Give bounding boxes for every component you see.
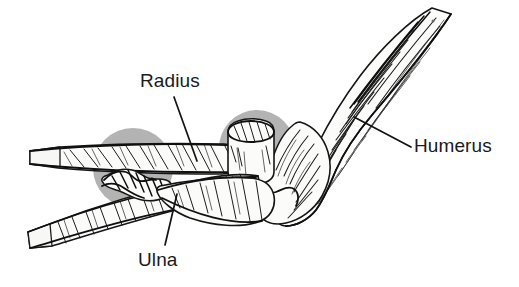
humerus-leader-line — [354, 117, 411, 147]
label-humerus: Humerus — [414, 136, 492, 155]
label-ulna: Ulna — [138, 250, 177, 269]
anatomical-figure: Radius Ulna Humerus — [0, 0, 519, 287]
ink-speck — [432, 20, 435, 23]
label-radius: Radius — [140, 71, 200, 90]
